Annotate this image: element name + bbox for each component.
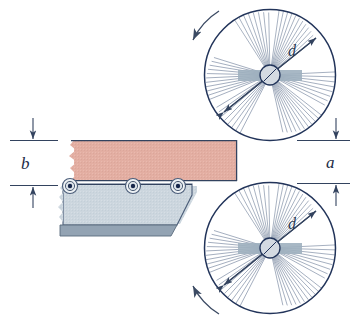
lower-diameter-label: d [288,215,297,232]
roller-1 [63,179,78,194]
upper-diameter-label: d [288,42,297,59]
figure-canvas: d [0,0,357,328]
workpiece-sheet [69,140,237,181]
a-dimension-label: a [326,153,335,172]
roller-3 [171,179,186,194]
support-block-base [60,225,177,236]
technical-diagram: d [0,0,357,328]
roller-2 [126,179,141,194]
workpiece-body [74,140,237,181]
b-dimension-label: b [21,154,30,173]
